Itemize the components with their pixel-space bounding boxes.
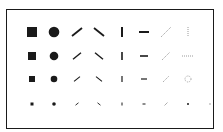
marker-grid <box>1 1 223 132</box>
circle-icon <box>51 76 58 83</box>
backslash-icon <box>95 53 103 59</box>
square-icon <box>27 27 37 37</box>
backslash-icon <box>96 77 102 82</box>
dotted-circle-icon <box>185 76 191 82</box>
slash-icon <box>74 77 80 82</box>
dot-icon <box>187 103 189 105</box>
thin-diagonal-icon <box>162 52 170 60</box>
square-icon <box>28 52 36 60</box>
slash-icon <box>76 103 79 105</box>
circle-icon <box>49 27 60 38</box>
backslash-icon <box>94 28 104 36</box>
thin-diagonal-icon <box>161 27 171 37</box>
thin-diagonal-icon <box>165 103 168 106</box>
backslash-icon <box>98 103 101 105</box>
thin-diagonal-icon <box>163 76 169 82</box>
dot-icon <box>209 103 211 105</box>
circle-icon <box>50 52 59 61</box>
figure-frame <box>6 9 214 129</box>
slash-icon <box>73 53 81 59</box>
circle-icon <box>52 102 56 106</box>
slash-icon <box>72 28 82 36</box>
square-icon <box>31 103 34 106</box>
square-icon <box>29 76 35 82</box>
